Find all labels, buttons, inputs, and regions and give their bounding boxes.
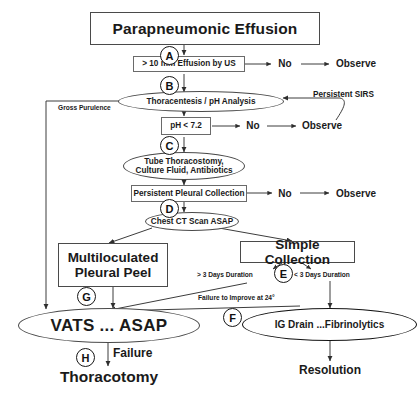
marker-g: G: [77, 287, 96, 306]
marker-letter: F: [229, 312, 236, 324]
node-no-branch-d: No: [270, 185, 300, 202]
node-observe-c: Observe: [294, 118, 350, 134]
node-label: IG Drain ...Fibrinolytics: [275, 319, 384, 330]
node-no-branch-c: No: [238, 118, 268, 134]
node-vats[interactable]: VATS ... ASAP: [18, 308, 200, 343]
node-multiloculated-pleural-peel[interactable]: Multiloculated Pleural Peel: [58, 243, 168, 287]
node-chest-ct-scan[interactable]: Chest CT Scan ASAP: [145, 212, 239, 231]
node-label: Observe: [336, 58, 376, 69]
node-effusion-by-us[interactable]: > 10 mm Effusion by US: [133, 56, 245, 72]
node-label: No: [278, 58, 291, 69]
edge-label-more-than-3-days: > 3 Days Duration: [197, 271, 253, 278]
marker-a: A: [160, 46, 179, 65]
marker-letter: G: [82, 291, 91, 303]
node-label-line2: Pleural Peel: [75, 265, 152, 280]
marker-letter: B: [166, 80, 174, 92]
edge-label-failure: Failure: [113, 346, 152, 360]
node-label-line1: Tube Thoracostomy,: [144, 157, 223, 166]
node-simple-collection[interactable]: Simple Collection: [240, 241, 355, 263]
node-label: No: [246, 120, 259, 131]
marker-b: B: [160, 76, 179, 95]
edge-label-failure-to-improve: Failure to Improve at 24°: [198, 294, 275, 301]
edge-label-less-than-3-days: < 3 Days Duration: [294, 271, 350, 278]
node-label: Thoracotomy: [60, 368, 158, 385]
marker-f: F: [223, 308, 242, 327]
node-label: Persistent Pleural Collection: [133, 189, 244, 198]
marker-e: E: [274, 264, 293, 283]
marker-c: C: [160, 136, 179, 155]
node-label-line1: Multiloculated: [68, 250, 159, 265]
node-label: Thoracentesis / pH Analysis: [147, 97, 256, 106]
node-label: > 10 mm Effusion by US: [142, 59, 236, 68]
marker-h: H: [76, 348, 95, 367]
node-ig-drain-fibrinolytics[interactable]: IG Drain ...Fibrinolytics: [242, 308, 417, 341]
marker-letter: D: [166, 203, 174, 215]
node-ph-threshold[interactable]: pH < 7.2: [161, 117, 211, 135]
marker-d: D: [160, 199, 179, 218]
node-label: VATS ... ASAP: [51, 316, 168, 335]
node-no-branch-a: No: [268, 56, 302, 72]
node-observe-a: Observe: [328, 56, 384, 72]
node-observe-d: Observe: [328, 185, 384, 202]
node-persistent-pleural-collection[interactable]: Persistent Pleural Collection: [131, 185, 247, 202]
node-thoracentesis-ph-analysis[interactable]: Thoracentesis / pH Analysis: [118, 91, 284, 112]
flowchart-canvas: Parapneumonic Effusion > 10 mm Effusion …: [0, 0, 420, 402]
edge-label-persistent-sirs: Persistent SIRS: [313, 90, 374, 99]
node-parapneumonic-effusion[interactable]: Parapneumonic Effusion: [90, 12, 320, 45]
node-label: Parapneumonic Effusion: [113, 20, 298, 37]
node-label-line2: Culture Fluid, Antibiotics: [135, 166, 232, 175]
marker-letter: E: [280, 268, 287, 280]
marker-letter: C: [166, 140, 174, 152]
node-label: No: [278, 188, 291, 199]
node-thoracotomy[interactable]: Thoracotomy: [54, 366, 164, 388]
marker-letter: A: [166, 50, 174, 62]
node-tube-thoracostomy[interactable]: Tube Thoracostomy, Culture Fluid, Antibi…: [123, 152, 245, 180]
node-label: Chest CT Scan ASAP: [151, 217, 234, 226]
node-label: Simple Collection: [241, 237, 354, 267]
edge-label-gross-purulence: Gross Purulence: [58, 104, 111, 111]
marker-letter: H: [82, 352, 90, 364]
node-resolution[interactable]: Resolution: [291, 361, 369, 381]
node-label: Resolution: [299, 364, 361, 377]
node-label: pH < 7.2: [170, 121, 202, 130]
node-label: Observe: [302, 120, 342, 131]
node-label: Observe: [336, 188, 376, 199]
